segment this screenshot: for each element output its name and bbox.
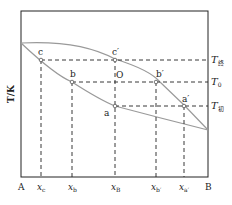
- label-T-final: T终: [211, 54, 224, 67]
- plot-frame: [21, 11, 208, 177]
- point-b-prime: [154, 80, 158, 84]
- label-c: c: [38, 47, 43, 57]
- label-a-prime: a′: [182, 94, 189, 104]
- point-c-prime: [113, 58, 117, 62]
- tick-xb-prime: xb′: [151, 182, 162, 193]
- tick-xc: xc: [37, 182, 46, 193]
- point-c: [39, 58, 43, 62]
- x-axis-B: B: [205, 182, 212, 192]
- label-T-initial: T初: [211, 100, 224, 113]
- point-a: [113, 104, 117, 108]
- point-b: [70, 80, 74, 84]
- tick-xa-prime: xa′: [179, 182, 190, 193]
- y-axis-label: T/K: [6, 84, 16, 103]
- label-a: a: [104, 108, 110, 118]
- label-b-prime: b′: [156, 69, 164, 79]
- point-a-prime: [182, 104, 186, 108]
- label-T0: T0: [211, 76, 222, 88]
- tick-xb: xb: [68, 182, 77, 193]
- tick-xB: xB: [111, 182, 121, 193]
- label-b: b: [70, 69, 76, 79]
- phase-diagram: c c′ b b′ O a a′ T终 T0 T初 T/K A B xc xb …: [0, 0, 232, 205]
- label-c-prime: c′: [112, 47, 119, 57]
- label-O: O: [116, 70, 123, 80]
- x-axis-A: A: [17, 182, 25, 192]
